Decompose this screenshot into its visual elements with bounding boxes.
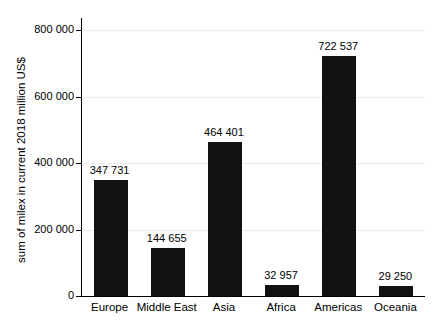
bar bbox=[265, 285, 299, 296]
y-tick-label: 200 000 bbox=[0, 223, 74, 235]
bar-value-label: 464 401 bbox=[179, 126, 269, 138]
bar-chart-figure: sum of milex in current 2018 million US$… bbox=[0, 0, 442, 327]
x-category-label: Oceania bbox=[350, 301, 440, 313]
y-tick-mark bbox=[76, 296, 81, 297]
bar-value-label: 347 731 bbox=[65, 164, 155, 176]
gridline bbox=[82, 97, 425, 98]
y-tick-label: 0 bbox=[0, 289, 74, 301]
plot-area bbox=[81, 18, 425, 297]
bar bbox=[151, 248, 185, 296]
y-tick-mark bbox=[76, 30, 81, 31]
bar bbox=[322, 56, 356, 296]
y-tick-label: 600 000 bbox=[0, 90, 74, 102]
y-tick-mark bbox=[76, 230, 81, 231]
bar-value-label: 722 537 bbox=[293, 40, 383, 52]
gridline bbox=[82, 30, 425, 31]
y-tick-mark bbox=[76, 97, 81, 98]
gridline bbox=[82, 230, 425, 231]
bar-value-label: 32 957 bbox=[236, 269, 326, 281]
y-tick-label: 400 000 bbox=[0, 156, 74, 168]
bar bbox=[379, 286, 413, 296]
y-tick-label: 800 000 bbox=[0, 23, 74, 35]
bar-value-label: 144 655 bbox=[122, 232, 212, 244]
bar-value-label: 29 250 bbox=[350, 270, 440, 282]
